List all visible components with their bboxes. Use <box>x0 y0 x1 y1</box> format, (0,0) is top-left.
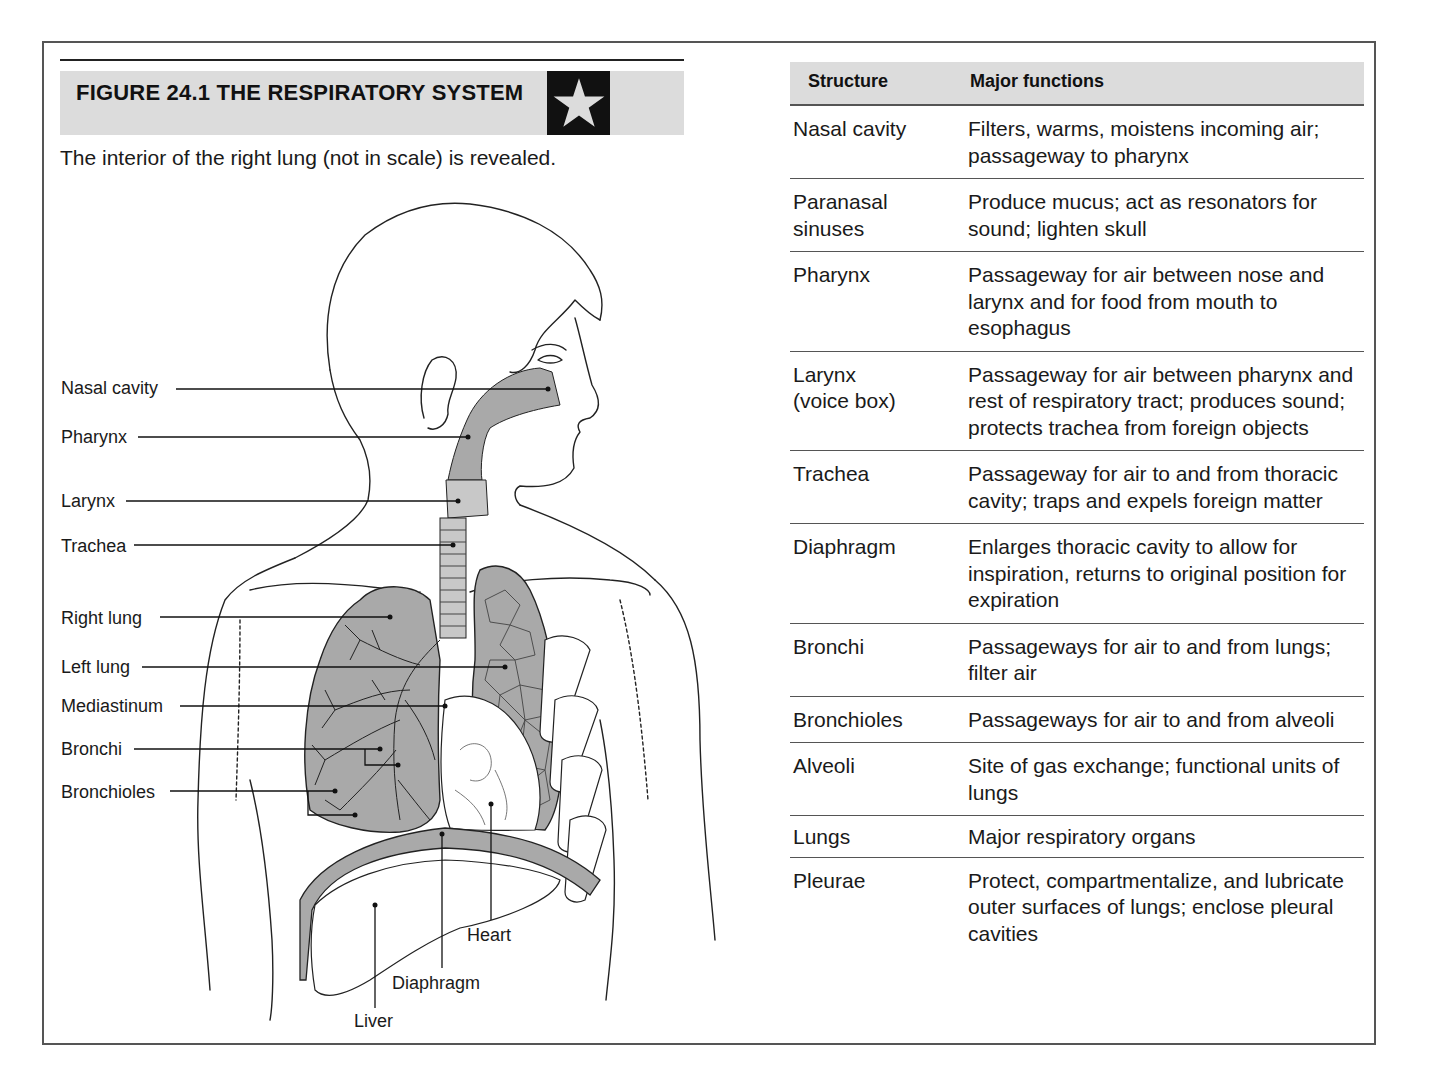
nasal-pharynx-shading <box>448 368 560 480</box>
structure-cell: Paranasal sinuses <box>793 189 903 242</box>
label-bronchioles: Bronchioles <box>61 782 155 802</box>
function-cell: Passageways for air to and from alveoli <box>968 697 1364 743</box>
label-left-lung: Left lung <box>61 657 130 677</box>
figure-title: FIGURE 24.1 THE RESPIRATORY SYSTEM <box>76 80 523 106</box>
table-row: Lungs Major respiratory organs <box>790 816 1364 858</box>
table-row: Pharynx Passageway for air between nose … <box>790 252 1364 352</box>
figure-header: FIGURE 24.1 THE RESPIRATORY SYSTEM <box>60 71 684 135</box>
structure-cell: Nasal cavity <box>793 116 953 143</box>
label-bronchi: Bronchi <box>61 739 122 759</box>
table-header: Structure Major functions <box>790 62 1364 106</box>
function-cell: Passageway for air between nose and lary… <box>968 252 1364 351</box>
respiratory-diagram <box>46 180 746 1040</box>
structure-cell: Pleurae <box>793 868 953 895</box>
label-pharynx: Pharynx <box>61 427 127 447</box>
table-row: Trachea Passageway for air to and from t… <box>790 451 1364 524</box>
function-cell: Passageway for air between pharynx and r… <box>968 352 1364 451</box>
header-structure: Structure <box>808 71 888 92</box>
label-right-lung: Right lung <box>61 608 142 628</box>
label-larynx: Larynx <box>61 491 115 511</box>
label-nasal-cavity: Nasal cavity <box>61 378 158 398</box>
function-cell: Site of gas exchange; functional units o… <box>968 743 1364 815</box>
function-cell: Produce mucus; act as resonators for sou… <box>968 179 1364 251</box>
function-cell: Filters, warms, moistens incoming air; p… <box>968 106 1364 178</box>
table-row: Pleurae Protect, compartmentalize, and l… <box>790 858 1364 957</box>
structure-cell: Bronchi <box>793 634 953 661</box>
figure-caption: The interior of the right lung (not in s… <box>60 146 556 170</box>
function-cell: Protect, compartmentalize, and lubricate… <box>968 858 1364 957</box>
structure-cell: Diaphragm <box>793 534 953 561</box>
function-cell: Enlarges thoracic cavity to allow for in… <box>968 524 1364 623</box>
label-liver: Liver <box>354 1011 393 1031</box>
table-row: Bronchi Passageways for air to and from … <box>790 624 1364 697</box>
function-cell: Passageway for air to and from thoracic … <box>968 451 1364 523</box>
table-row: Nasal cavity Filters, warms, moistens in… <box>790 106 1364 179</box>
label-diaphragm: Diaphragm <box>392 973 480 993</box>
header-functions: Major functions <box>970 71 1104 92</box>
star-icon <box>547 71 610 135</box>
table-row: Diaphragm Enlarges thoracic cavity to al… <box>790 524 1364 624</box>
label-heart: Heart <box>467 925 511 945</box>
table-row: Larynx (voice box) Passageway for air be… <box>790 352 1364 452</box>
structure-cell: Pharynx <box>793 262 953 289</box>
structure-function-table: Structure Major functions Nasal cavity F… <box>790 62 1364 956</box>
label-trachea: Trachea <box>61 536 126 556</box>
function-cell: Major respiratory organs <box>968 816 1364 857</box>
structure-cell: Alveoli <box>793 753 953 780</box>
structure-cell: Lungs <box>793 824 953 851</box>
right-lung-shape <box>305 587 440 832</box>
structure-cell: Larynx (voice box) <box>793 362 913 415</box>
structure-cell: Bronchioles <box>793 707 953 734</box>
function-cell: Passageways for air to and from lungs; f… <box>968 624 1364 696</box>
table-row: Paranasal sinuses Produce mucus; act as … <box>790 179 1364 252</box>
structure-cell: Trachea <box>793 461 953 488</box>
top-rule <box>60 59 684 61</box>
table-row: Alveoli Site of gas exchange; functional… <box>790 743 1364 816</box>
head-outline <box>327 203 602 370</box>
table-row: Bronchioles Passageways for air to and f… <box>790 697 1364 744</box>
label-mediastinum: Mediastinum <box>61 696 163 716</box>
